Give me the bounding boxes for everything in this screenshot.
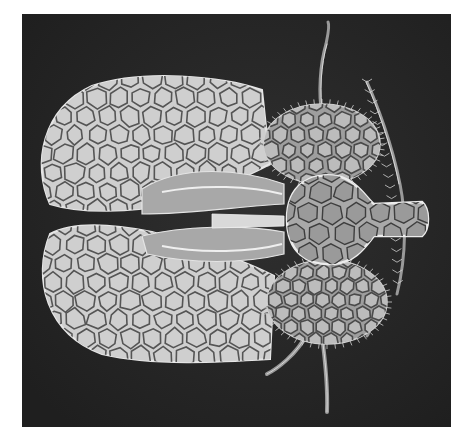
reticulation-cell	[143, 145, 160, 162]
reticulation-cell	[327, 128, 341, 143]
reticulation-cell	[318, 142, 332, 157]
reticulation-cell	[100, 183, 117, 201]
reticulation-cell	[285, 320, 298, 334]
reticulation-cell	[133, 310, 150, 329]
reticulation-cell	[132, 89, 150, 107]
reticulation-cell	[291, 127, 305, 142]
reticulation-cell	[120, 290, 140, 310]
reticulation-cell	[335, 223, 354, 245]
reticulation-cell	[188, 292, 204, 311]
reticulation-cell	[199, 127, 215, 144]
reticulation-cell	[166, 108, 182, 126]
reticulation-cell	[198, 272, 216, 291]
reticulation-cell	[349, 294, 361, 306]
reticulation-cell	[78, 254, 95, 271]
reticulation-cell	[319, 113, 332, 128]
reticulation-cell	[326, 279, 337, 294]
reticulation-cell	[308, 279, 322, 295]
sem-photograph	[22, 14, 451, 427]
reticulation-cell	[44, 164, 61, 181]
reticulation-cell	[325, 307, 338, 320]
reticulation-cell	[301, 112, 314, 126]
reticulation-cell	[220, 126, 237, 144]
reticulation-cell	[255, 328, 271, 346]
reticulation-cell	[300, 266, 313, 280]
reticulation-cell	[77, 182, 94, 199]
reticulation-cell	[364, 293, 378, 308]
reticulation-cell	[284, 293, 297, 307]
reticulation-cell	[208, 143, 227, 165]
reticulation-cell	[290, 157, 304, 174]
reticulation-cell	[276, 279, 290, 293]
lace-bug-illustration	[22, 14, 451, 427]
reticulation-cell	[154, 126, 172, 144]
